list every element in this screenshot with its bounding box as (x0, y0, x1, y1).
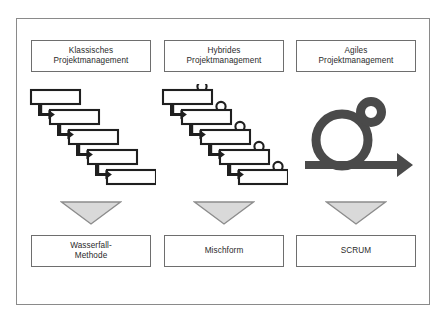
header-box-hybrid: Hybrides Projektmanagement (164, 40, 284, 72)
result-mischform-line1: Mischform (165, 246, 283, 256)
waterfall-cascade-icon (26, 84, 156, 196)
scrum-sprint-icon (292, 84, 422, 196)
down-triangle-icon-hybrid (193, 200, 255, 226)
cascade-arrows (38, 105, 112, 179)
result-wasserfall-line1: Wasserfall- (32, 241, 150, 251)
result-box-mischform: Mischform (164, 235, 284, 267)
project-management-comparison-diagram: Klassisches Projektmanagement Hybrides P… (0, 0, 447, 323)
header-klassisch-line1: Klassisches (32, 46, 150, 56)
header-hybrid-line2: Projektmanagement (165, 56, 283, 66)
down-triangle-icon-klassisch (60, 200, 122, 226)
header-box-agil: Agiles Projektmanagement (296, 40, 416, 72)
hybrid-cascade-person-icon (158, 84, 288, 196)
header-hybrid-line1: Hybrides (165, 46, 283, 56)
result-box-wasserfall: Wasserfall- Methode (31, 235, 151, 267)
result-wasserfall-line2: Methode (32, 251, 150, 261)
scrum-small-ring-icon (361, 102, 382, 123)
down-triangle-icon-agil (325, 200, 387, 226)
header-box-klassisch: Klassisches Projektmanagement (31, 40, 151, 72)
header-agil-line1: Agiles (297, 46, 415, 56)
result-box-scrum: SCRUM (296, 235, 416, 267)
header-agil-line2: Projektmanagement (297, 56, 415, 66)
result-scrum-line1: SCRUM (297, 246, 415, 256)
header-klassisch-line2: Projektmanagement (32, 56, 150, 66)
